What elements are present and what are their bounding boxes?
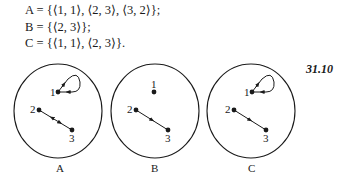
relation-diagrams: 1 2 3 A 1 2 3 B 1 2 3 C <box>0 0 347 182</box>
node-2 <box>134 108 139 113</box>
node-label-1: 1 <box>151 78 157 90</box>
diagram-label-c: C <box>248 162 255 174</box>
node-1 <box>56 90 61 95</box>
node-label-2: 2 <box>225 103 231 115</box>
diagram-a: 1 2 3 A <box>14 64 102 174</box>
node-label-3: 3 <box>69 132 75 144</box>
arrow-2-to-3 <box>150 119 152 120</box>
node-1 <box>250 90 255 95</box>
loop-edge-1-1 <box>58 75 80 92</box>
node-label-2: 2 <box>30 103 36 115</box>
set-circle-a <box>14 64 102 158</box>
loop-edge-1-1 <box>252 75 274 92</box>
arrow-2-to-3 <box>58 122 60 123</box>
node-2 <box>232 108 237 113</box>
node-label-1: 1 <box>244 86 250 98</box>
arrow-2-to-3 <box>248 119 250 120</box>
edge-2-3 <box>39 110 72 130</box>
diagram-label-a: A <box>56 162 64 174</box>
diagram-b: 1 2 3 B <box>111 64 199 174</box>
node-2 <box>37 108 42 113</box>
node-label-3: 3 <box>263 132 269 144</box>
arrow-3-to-2 <box>52 118 54 119</box>
node-label-1: 1 <box>50 86 56 98</box>
node-label-3: 3 <box>165 132 171 144</box>
diagram-c: 1 2 3 C <box>207 64 295 174</box>
diagram-label-b: B <box>151 162 158 174</box>
set-circle-c <box>207 64 295 158</box>
node-label-2: 2 <box>127 103 133 115</box>
node-1 <box>152 90 157 95</box>
